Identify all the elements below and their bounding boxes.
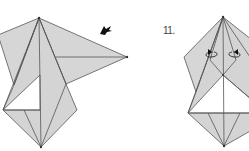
step-11-figure xyxy=(184,16,249,147)
step-number-label: 11. xyxy=(163,25,175,36)
push-arrow-icon xyxy=(100,26,112,35)
origami-diagram xyxy=(0,0,249,151)
step-10-figure xyxy=(0,17,128,148)
